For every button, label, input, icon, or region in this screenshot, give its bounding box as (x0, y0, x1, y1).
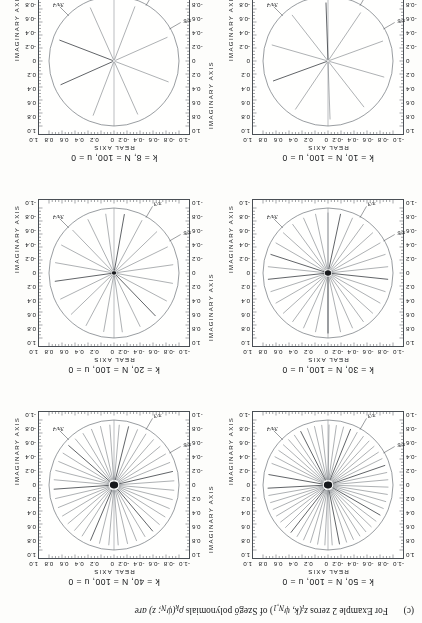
zero-trace (55, 486, 109, 498)
plot-panel-k10: k = 10, N = 100, u = 0REAL AXIS-1.0-0.8-… (252, 0, 404, 163)
angle-label-π/3-k50: π/3 (368, 413, 376, 419)
y-tick-labels-left-k40: 1.00.80.60.40.20-0.2-0.4-0.6-0.8-1.0 (192, 412, 203, 558)
zero-trace (54, 485, 109, 489)
zero-trace (283, 445, 324, 482)
plot-area-k20: 1.00.80.60.40.20-0.2-0.4-0.6-0.8-1.01.00… (38, 199, 190, 347)
y-tick-right-9: -0.8 (239, 426, 250, 432)
y-tick-right-4: 0.2 (25, 284, 36, 290)
zero-trace (325, 490, 328, 545)
zero-trace (68, 445, 110, 481)
zero-trace (268, 485, 323, 488)
y-tick-left-3: 0.4 (406, 86, 417, 92)
zero-trace (333, 486, 386, 501)
zero-trace (60, 274, 111, 299)
zero-trace (115, 61, 168, 81)
y-tick-left-4: 0.2 (192, 496, 203, 502)
y-tick-left-10: -1.0 (192, 412, 203, 418)
angle-leader-line (60, 7, 69, 16)
y-tick-left-9: -0.8 (192, 214, 203, 220)
y-tick-right-1: 0.8 (25, 114, 36, 120)
x-tick-labels-k20: -1.0-0.8-0.6-0.4-0.200.20.40.60.81.0 (38, 349, 190, 356)
y-tick-right-2: 0.6 (239, 100, 250, 106)
plot-panel-k50: k = 50, N = 100, u = 0REAL AXIS-1.0-0.8-… (252, 411, 404, 587)
angle-leader-line (146, 206, 153, 217)
angle-label-3π/4-k20: 3π/4 (53, 214, 64, 220)
y-tick-right-7: -0.4 (25, 30, 36, 36)
y-tick-right-9: -0.8 (239, 2, 250, 8)
zero-trace (329, 214, 341, 269)
zero-trace (118, 446, 160, 482)
y-tick-right-8: -0.6 (25, 16, 36, 22)
y-tick-right-1: 0.8 (25, 326, 36, 332)
zero-trace (328, 62, 330, 119)
y-tick-right-6: -0.2 (25, 256, 36, 262)
zero-trace (331, 243, 380, 271)
rotated-page-container: (c)For Example 2 zeros zi(k, ψN,1) of Sz… (0, 0, 422, 623)
y-tick-labels-right-k8: 1.00.80.60.40.20-0.2-0.4-0.6-0.8-1.0 (25, 0, 36, 134)
zero-trace (272, 45, 327, 61)
zero-trace (280, 488, 324, 522)
zero-trace (291, 489, 325, 533)
zero-trace (333, 488, 381, 516)
y-tick-left-4: 0.2 (192, 72, 203, 78)
panel-title-k10: k = 10, N = 100, u = 0 (252, 153, 404, 163)
zero-trace (315, 214, 327, 269)
angle-leader-line (169, 235, 180, 242)
zero-trace (332, 441, 370, 481)
y-tick-left-6: -0.2 (406, 468, 417, 474)
y-tick-left-7: -0.4 (406, 454, 417, 460)
zero-trace (333, 485, 388, 487)
y-tick-left-2: 0.6 (406, 100, 417, 106)
y-tick-left-7: -0.4 (192, 454, 203, 460)
x-tick-labels-k40: -1.0-0.8-0.6-0.4-0.200.20.40.60.81.0 (38, 561, 190, 568)
zero-trace (115, 220, 142, 271)
plot-panel-k8: k = 8, N = 100, u = 0REAL AXIS-1.0-0.8-0… (38, 0, 190, 163)
y-tick-right-4: 0.2 (25, 496, 36, 502)
x-tick-labels-k50: -1.0-0.8-0.6-0.4-0.200.20.40.60.81.0 (252, 561, 404, 568)
y-tick-left-6: -0.2 (192, 468, 203, 474)
y-tick-right-6: -0.2 (25, 468, 36, 474)
y-tick-left-8: -0.6 (192, 440, 203, 446)
x-axis-label-k8: REAL AXIS (38, 145, 190, 152)
zero-trace (322, 425, 328, 480)
zero-trace (117, 265, 174, 273)
caption-text-1: For Example 2 zeros (308, 606, 388, 616)
y-axis-label-left-k20: IMAGINARY AXIS (208, 273, 214, 341)
zero-trace (114, 6, 134, 59)
y-axis-label-left-k40: IMAGINARY AXIS (208, 485, 214, 553)
plot-area-k10: 1.00.80.60.40.20-0.2-0.4-0.6-0.8-1.01.00… (252, 0, 404, 135)
zero-trace (273, 61, 327, 81)
angle-leader-line (146, 418, 153, 429)
y-tick-left-5: 0 (406, 482, 417, 488)
caption-sub-k: k (176, 603, 179, 612)
angle-leader-line (274, 7, 283, 16)
zero-trace (59, 40, 112, 60)
y-tick-right-4: 0.2 (25, 72, 36, 78)
zero-trace (93, 62, 113, 115)
zero-trace (117, 489, 153, 531)
zero-trace (331, 275, 380, 303)
y-tick-labels-right-k50: 1.00.80.60.40.20-0.2-0.4-0.6-0.8-1.0 (239, 412, 250, 558)
zero-trace (54, 480, 109, 485)
zero-trace (116, 275, 156, 316)
angle-leader-line (383, 447, 394, 454)
y-tick-right-7: -0.4 (239, 454, 250, 460)
y-tick-left-1: 0.8 (192, 114, 203, 120)
y-tick-right-8: -0.6 (239, 440, 250, 446)
y-tick-right-0: 1.0 (25, 552, 36, 558)
angle-leader-line (360, 206, 367, 217)
y-tick-left-10: -1.0 (192, 200, 203, 206)
zero-trace (276, 243, 325, 271)
y-tick-right-0: 1.0 (239, 552, 250, 558)
y-axis-label-right-k30: IMAGINARY AXIS (228, 205, 234, 273)
y-tick-left-5: 0 (406, 270, 417, 276)
y-tick-left-2: 0.6 (192, 312, 203, 318)
y-tick-right-4: 0.2 (239, 496, 250, 502)
zero-trace (115, 62, 138, 114)
zero-trace (86, 275, 113, 326)
y-axis-label-right-k50: IMAGINARY AXIS (228, 417, 234, 485)
y-tick-left-6: -0.2 (192, 256, 203, 262)
zero-trace (116, 274, 167, 301)
y-tick-left-4: 0.2 (406, 496, 417, 502)
zero-trace (115, 37, 167, 60)
